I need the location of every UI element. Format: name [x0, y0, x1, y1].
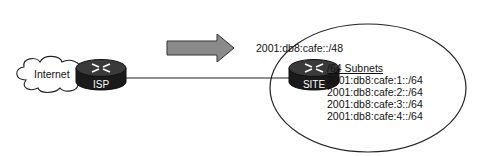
site-prefix-label: 2001:db8:cafe::/48 — [256, 42, 343, 54]
isp-router-label: ISP — [89, 79, 113, 90]
subnets-title: /64 Subnets — [327, 62, 383, 74]
cloud-label: Internet — [34, 68, 70, 80]
site-router-label: SITE — [300, 79, 328, 90]
subnet-item: 2001:db8:cafe:4::/64 — [327, 110, 423, 122]
subnet-item: 2001:db8:cafe:2::/64 — [327, 86, 423, 98]
subnet-item: 2001:db8:cafe:1::/64 — [327, 74, 423, 86]
subnet-item: 2001:db8:cafe:3::/64 — [327, 98, 423, 110]
arrow-right-icon — [167, 34, 234, 62]
